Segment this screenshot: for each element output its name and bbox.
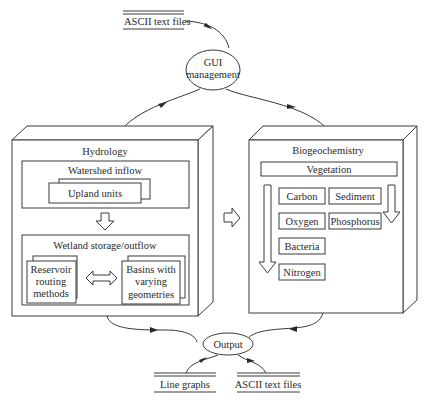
basins-line2: varying — [135, 276, 168, 287]
watershed-inflow-title: Watershed inflow — [68, 165, 143, 176]
ascii-files-output-store: ASCII text files — [235, 373, 302, 392]
hydrology-title: Hydrology — [82, 146, 128, 157]
arrow-head — [289, 326, 297, 332]
arrow-head — [204, 23, 214, 30]
arrow-head — [150, 327, 158, 333]
basins-line3: geometries — [128, 289, 174, 300]
biogeochemistry-top-face — [249, 126, 417, 140]
reservoir-line3: methods — [33, 288, 69, 299]
flow-output-to-line-graphs — [186, 355, 218, 373]
model-architecture-diagram: ASCII text files GUI management Hydrolog… — [0, 0, 427, 404]
arrow-head — [158, 102, 167, 108]
phosphorus-label: Phosphorus — [330, 216, 379, 227]
reservoir-line1: Reservoir — [31, 264, 72, 275]
input-data-store: ASCII text files — [123, 11, 191, 29]
carbon-label: Carbon — [287, 191, 319, 202]
biogeochemistry-title: Biogeochemistry — [292, 145, 364, 156]
reservoir-line2: routing — [36, 276, 67, 287]
biogeochemistry-module: Biogeochemistry Vegetation Carbon Sedime… — [249, 126, 417, 313]
output-node: Output — [203, 333, 253, 355]
gui-management-node: GUI management — [186, 50, 240, 90]
gui-label-line2: management — [186, 69, 240, 80]
nitrogen-label: Nitrogen — [283, 267, 321, 278]
upland-units-label: Upland units — [68, 188, 122, 199]
hydrology-side-face — [198, 126, 213, 316]
basins-line1: Basins with — [126, 264, 176, 275]
output-label: Output — [213, 339, 242, 350]
ascii-files-output-label: ASCII text files — [235, 379, 302, 390]
sediment-label: Sediment — [335, 191, 375, 202]
bacteria-label: Bacteria — [285, 241, 320, 252]
oxygen-label: Oxygen — [285, 216, 319, 227]
hydrology-top-face — [12, 126, 213, 140]
flow-output-to-ascii-files — [238, 355, 266, 373]
line-graphs-store: Line graphs — [154, 373, 216, 392]
flow-biogeochemistry-to-output — [246, 313, 323, 342]
biogeochemistry-side-face — [403, 126, 417, 313]
right-arrow-icon — [224, 208, 240, 227]
gui-label-line1: GUI — [204, 57, 223, 68]
wetland-storage-title: Wetland storage/outflow — [53, 240, 157, 251]
input-store-label: ASCII text files — [124, 16, 191, 27]
vegetation-label: Vegetation — [307, 164, 353, 175]
arrow-head — [199, 357, 207, 363]
hydrology-module: Hydrology Watershed inflow Upland units … — [12, 126, 213, 316]
line-graphs-label: Line graphs — [160, 379, 210, 390]
